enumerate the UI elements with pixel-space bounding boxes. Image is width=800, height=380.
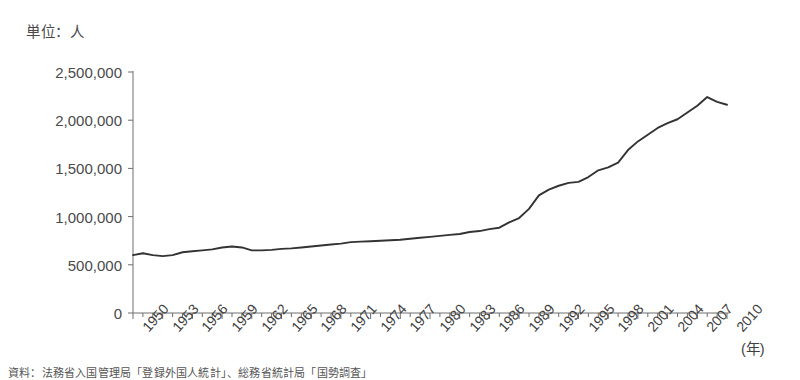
x-axis-tick-label: 1962 xyxy=(258,324,270,335)
chart-footnote: 資料：法務省入国管理局「登録外国人統計」、総務省統計局「国勢調査」 xyxy=(8,364,798,380)
x-axis-tick-label: 2007 xyxy=(703,324,715,335)
x-axis-tick-label: 1995 xyxy=(585,324,597,335)
x-axis-tick-label: 1986 xyxy=(495,324,507,335)
x-axis-tick-label: 2001 xyxy=(644,324,656,335)
x-axis-tick-label: 1983 xyxy=(466,324,478,335)
x-axis-tick-label: 1977 xyxy=(406,324,418,335)
x-axis-tick-label: 2004 xyxy=(674,324,686,335)
x-axis-tick-label: 1974 xyxy=(377,324,389,335)
x-axis-tick-label: 2010 xyxy=(733,324,745,335)
x-axis-tick-label: 1998 xyxy=(614,324,626,335)
x-axis-unit-label: (年) xyxy=(741,337,765,358)
x-axis-tick-label: 1950 xyxy=(139,324,151,335)
x-axis-tick-label: 1989 xyxy=(525,324,537,335)
x-axis-tick-label: 1965 xyxy=(288,324,300,335)
x-axis-tick-label: 1971 xyxy=(347,324,359,335)
x-axis-tick-label: 1956 xyxy=(198,324,210,335)
x-axis-tick-label: 1953 xyxy=(169,324,181,335)
x-axis-tick-label: 1959 xyxy=(228,324,240,335)
x-axis-tick-label: 1992 xyxy=(555,324,567,335)
x-axis-tick-label: 1968 xyxy=(317,324,329,335)
x-axis-tick-label: 1980 xyxy=(436,324,448,335)
